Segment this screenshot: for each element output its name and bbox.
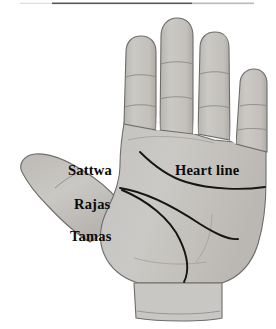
- figure-container: Sattwa Rajas Tamas Heart line: [0, 0, 276, 329]
- wrist-shape: [134, 283, 222, 321]
- label-heart-line: Heart line: [175, 163, 239, 178]
- middle-finger: [160, 18, 193, 134]
- top-divider-rule: [20, 3, 254, 5]
- label-sattwa: Sattwa: [68, 163, 112, 178]
- label-tamas: Tamas: [70, 229, 112, 244]
- pinky-finger: [236, 69, 267, 152]
- index-finger: [124, 36, 156, 130]
- ring-finger: [198, 32, 230, 140]
- label-rajas: Rajas: [74, 197, 110, 212]
